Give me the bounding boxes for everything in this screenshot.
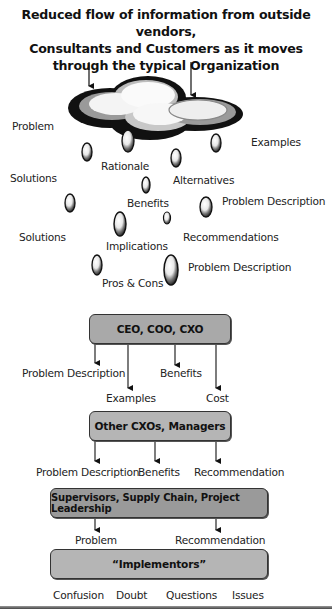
droplet-icon: [82, 143, 92, 161]
box-ceo-coo-cxo: CEO, COO, CXO: [89, 314, 231, 344]
label-pros-cons: Pros & Cons: [102, 277, 163, 289]
droplet-icon: [114, 212, 126, 236]
box-implementors-label: “Implementors”: [112, 558, 206, 570]
bottom-divider: [0, 606, 332, 609]
level2-connectors: [95, 439, 216, 461]
level1-connectors: [95, 343, 216, 388]
droplet-icon: [211, 134, 221, 152]
label-problem: Problem: [12, 120, 54, 132]
box-other-cxos-managers: Other CXOs, Managers: [89, 411, 231, 441]
l2-output-problem-description: Problem Description: [36, 466, 139, 478]
l3-output-problem: Problem: [75, 534, 117, 546]
l4-output-questions: Questions: [166, 589, 217, 601]
l4-output-confusion: Confusion: [53, 589, 104, 601]
droplet-icon: [142, 177, 150, 193]
box-supervisors-supply-chain: Supervisors, Supply Chain, Project Leade…: [50, 488, 268, 518]
label-implications: Implications: [106, 240, 168, 252]
l1-output-examples: Examples: [106, 392, 156, 404]
label-problem-description-2: Problem Description: [188, 261, 291, 273]
box-ceo-coo-cxo-label: CEO, COO, CXO: [117, 323, 204, 335]
l2-output-benefits: Benefits: [138, 466, 180, 478]
box-supervisors-label: Supervisors, Supply Chain, Project Leade…: [51, 492, 267, 514]
box-implementors: “Implementors”: [50, 549, 268, 579]
l4-output-doubt: Doubt: [116, 589, 147, 601]
cloud-icon: [68, 76, 243, 140]
label-recommendations: Recommendations: [183, 231, 279, 243]
droplet-icon: [65, 194, 75, 212]
droplet-icon: [164, 212, 171, 224]
l4-output-issues: Issues: [232, 589, 264, 601]
l2-output-recommendation: Recommendation: [194, 466, 284, 478]
droplet-icon: [200, 197, 212, 217]
label-rationale: Rationale: [101, 160, 149, 172]
box-other-cxos-managers-label: Other CXOs, Managers: [95, 420, 226, 432]
l1-output-cost: Cost: [206, 392, 229, 404]
level3-connectors: [95, 518, 216, 530]
l1-output-benefits: Benefits: [160, 367, 202, 379]
droplet-icon: [164, 255, 178, 285]
label-solutions-2: Solutions: [19, 231, 66, 243]
label-examples: Examples: [251, 136, 301, 148]
droplet-icon: [171, 149, 181, 167]
label-benefits: Benefits: [127, 197, 169, 209]
label-problem-description-1: Problem Description: [222, 195, 325, 207]
droplet-icon: [92, 255, 102, 275]
diagram-graphics: [0, 0, 332, 614]
label-solutions-1: Solutions: [10, 172, 57, 184]
l3-output-recommendation: Recommendation: [175, 534, 265, 546]
l1-output-problem-description: Problem Description: [22, 367, 125, 379]
label-alternatives: Alternatives: [173, 174, 234, 186]
droplet-icon: [122, 130, 134, 152]
